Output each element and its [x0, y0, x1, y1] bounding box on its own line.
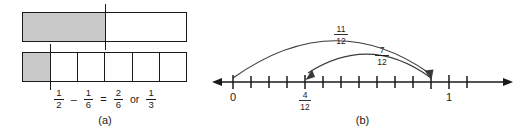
fraction-numerator: 11	[337, 24, 346, 34]
panel-b-label: (b)	[210, 114, 515, 126]
fraction-denominator: 2	[54, 100, 63, 111]
number-line-axis	[212, 78, 513, 86]
sixth-marker-line	[50, 44, 51, 90]
equation: 1 2 – 1 6 = 2 6 or 1 3	[0, 88, 210, 111]
sixths-bar-cell	[132, 53, 159, 81]
fraction-one-sixth: 1 6	[84, 88, 93, 111]
fraction-one-third: 1 3	[146, 88, 155, 111]
number-line-label-four-twelfths: 4 12	[299, 90, 311, 112]
panel-a: 1 2 – 1 6 = 2 6 or 1 3 (a)	[0, 0, 210, 139]
fraction-numerator: 4	[303, 90, 308, 100]
number-line-label-zero: 0	[230, 91, 236, 103]
sixths-bar-cell-shaded	[23, 53, 50, 81]
sixths-bar-cell	[159, 53, 186, 81]
sixths-bar-cell	[104, 53, 131, 81]
sixths-bar	[22, 52, 187, 82]
fraction-numerator: 7	[380, 45, 385, 55]
sixths-bar-cell	[77, 53, 104, 81]
equals-operator: =	[100, 94, 106, 105]
fraction-two-sixths: 2 6	[114, 88, 123, 111]
panel-a-label: (a)	[0, 114, 210, 126]
fraction-denominator: 12	[300, 102, 310, 112]
fraction-numerator: 1	[54, 88, 63, 100]
figure-root: 1 2 – 1 6 = 2 6 or 1 3 (a)	[0, 0, 515, 139]
fraction-numerator: 1	[146, 88, 155, 100]
axis-arrow-left-icon	[212, 78, 222, 86]
axis-arrow-right-icon	[503, 78, 513, 86]
halves-bar-cell-shaded	[23, 13, 105, 41]
fraction-numerator: 2	[114, 88, 123, 100]
halves-bar-cell	[105, 13, 187, 41]
fraction-denominator: 3	[146, 100, 155, 111]
fraction-numerator: 1	[84, 88, 93, 100]
fraction-denominator: 6	[84, 100, 93, 111]
fraction-denominator: 12	[336, 36, 346, 46]
number-line-diagram: 0 1 4 12 11 12 7 12	[210, 0, 515, 115]
fraction-one-half: 1 2	[54, 88, 63, 111]
minus-operator: –	[71, 94, 77, 105]
fraction-denominator: 6	[114, 100, 123, 111]
sixths-bar-cell	[50, 53, 77, 81]
fraction-denominator: 12	[377, 57, 387, 67]
arc-eleven-twelfths: 11 12	[233, 24, 434, 80]
or-conjunction: or	[130, 94, 139, 105]
number-line-label-one: 1	[446, 91, 452, 103]
half-marker-line	[105, 4, 106, 50]
